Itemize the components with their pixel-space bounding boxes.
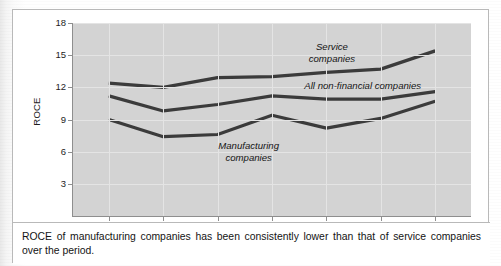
plot-area [73, 23, 471, 216]
annotation-all-non-financial-companies: All non-financial companies [304, 80, 421, 92]
y-tick-mark [68, 184, 73, 185]
annotation-manufacturing-companies: Manufacturing companies [218, 140, 279, 163]
gridline-vertical [163, 23, 164, 216]
x-tick-mark [163, 216, 164, 221]
figure-panel: 369121518 2008200920102011201220132014 R… [12, 9, 489, 263]
y-axis-title: ROCE [31, 67, 42, 157]
y-tick-mark [68, 152, 73, 153]
y-tick-mark [68, 120, 73, 121]
y-tick-mark [68, 87, 73, 88]
y-tick-label: 18 [20, 18, 66, 28]
x-tick-mark [381, 216, 382, 221]
annotation-manu-line1: Manufacturing [218, 140, 279, 151]
gridline-vertical [218, 23, 219, 216]
annotation-manu-line2: companies [225, 152, 271, 163]
figure-caption: ROCE of manufacturing companies has been… [13, 222, 490, 264]
y-tick-mark [68, 23, 73, 24]
y-tick-label: 9 [20, 115, 66, 125]
y-tick-label: 12 [20, 82, 66, 92]
gridline-vertical [435, 23, 436, 216]
y-tick-label: 3 [20, 179, 66, 189]
x-tick-mark [272, 216, 273, 221]
x-tick-mark [109, 216, 110, 221]
gridline-vertical [381, 23, 382, 216]
x-tick-mark [218, 216, 219, 221]
annotation-service-line1: Service [316, 41, 348, 52]
caption-text: ROCE of manufacturing companies has been… [22, 230, 481, 257]
line-chart: 369121518 2008200920102011201220132014 R… [13, 10, 490, 222]
gridline-vertical [109, 23, 110, 216]
annotation-all-line1: All non-financial companies [304, 80, 421, 91]
annotation-service-line2: companies [309, 53, 355, 64]
y-tick-mark [68, 55, 73, 56]
x-tick-mark [435, 216, 436, 221]
y-tick-label: 15 [20, 50, 66, 60]
x-tick-mark [326, 216, 327, 221]
y-tick-label: 6 [20, 147, 66, 157]
annotation-service-companies: Service companies [309, 41, 355, 64]
gridline-vertical [272, 23, 273, 216]
